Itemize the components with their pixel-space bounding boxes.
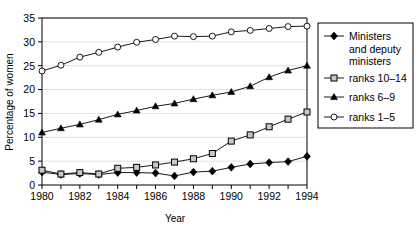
data-point: [77, 170, 83, 176]
data-point: [58, 171, 64, 177]
data-point: [115, 44, 121, 50]
legend-marker-open-square-icon: [331, 75, 337, 81]
data-point: [247, 27, 253, 33]
data-point: [190, 34, 196, 40]
data-point: [285, 24, 291, 30]
y-tick-label: 25: [23, 60, 35, 72]
y-tick-label: 5: [29, 155, 35, 167]
data-point: [134, 39, 140, 45]
legend: Ministersand deputyministersranks 10–14r…: [318, 23, 413, 128]
legend-label: Ministers: [349, 30, 391, 42]
data-point: [77, 54, 83, 60]
x-axis-title: Year: [165, 213, 186, 224]
data-point: [153, 36, 159, 42]
data-point: [266, 25, 272, 31]
data-point: [228, 138, 234, 144]
data-point: [115, 165, 121, 171]
data-point: [39, 68, 45, 74]
x-tick-label: 1986: [144, 190, 168, 202]
x-tick-label: 1980: [30, 190, 54, 202]
data-point: [247, 132, 253, 138]
data-point: [96, 49, 102, 55]
y-tick-label: 30: [23, 36, 35, 48]
legend-label-line2: and deputy: [349, 43, 402, 55]
x-tick-label: 1990: [220, 190, 244, 202]
data-point: [153, 162, 159, 168]
y-axis-title: Percentage of women: [4, 53, 15, 150]
data-point: [228, 29, 234, 35]
line-chart: 05101520253035 1980198219841986198819901…: [0, 0, 416, 229]
chart-figure: 05101520253035 1980198219841986198819901…: [0, 0, 416, 229]
x-tick-label: 1992: [257, 190, 281, 202]
x-tick-label: 1994: [295, 190, 319, 202]
legend-label: ranks 1–5: [349, 111, 395, 123]
y-tick-label: 35: [23, 12, 35, 24]
data-point: [96, 171, 102, 177]
data-point: [190, 156, 196, 162]
data-point: [209, 151, 215, 157]
data-point: [39, 167, 45, 173]
data-point: [304, 23, 310, 29]
data-point: [58, 62, 64, 68]
legend-label-line3: ministers: [349, 55, 391, 67]
x-tick-label: 1988: [182, 190, 206, 202]
data-point: [285, 116, 291, 122]
data-point: [304, 109, 310, 115]
y-tick-label: 20: [23, 83, 35, 95]
y-tick-label: 10: [23, 131, 35, 143]
data-point: [172, 33, 178, 39]
y-tick-label: 0: [29, 179, 35, 191]
y-tick-label: 15: [23, 107, 35, 119]
data-point: [172, 159, 178, 165]
legend-label: ranks 10–14: [349, 72, 407, 84]
data-point: [266, 124, 272, 130]
x-tick-label: 1984: [106, 190, 130, 202]
data-point: [209, 33, 215, 39]
x-tick-label: 1982: [68, 190, 92, 202]
legend-marker-open-circle-icon: [331, 114, 337, 120]
data-point: [134, 164, 140, 170]
legend-label: ranks 6–9: [349, 91, 395, 103]
